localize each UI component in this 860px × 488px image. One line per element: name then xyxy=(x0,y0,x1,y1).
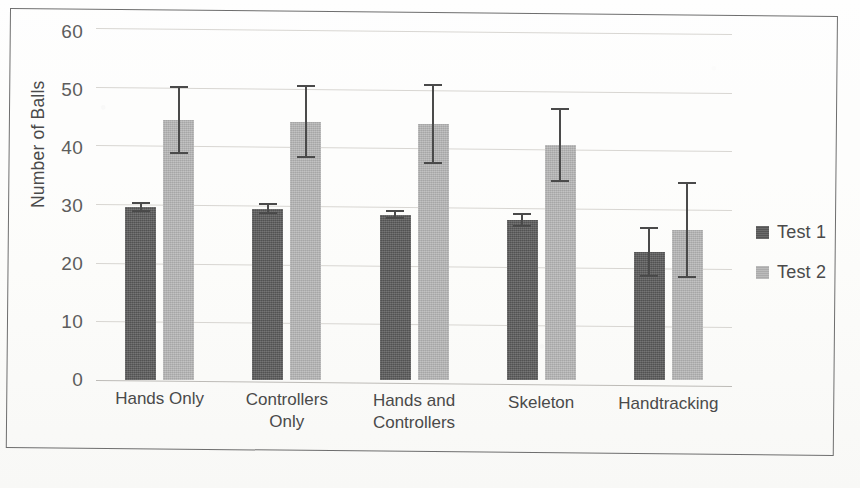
error-bar-cap-top xyxy=(678,182,696,184)
y-tick-label: 40 xyxy=(61,136,83,158)
error-bar-cap-top xyxy=(551,108,569,110)
error-bar-cap-bottom xyxy=(424,162,442,164)
legend-swatch-icon xyxy=(756,226,769,239)
error-bar-stem xyxy=(686,182,688,278)
bar-group xyxy=(125,28,194,380)
error-bar-cap-bottom xyxy=(551,180,569,182)
bar-group xyxy=(507,28,576,380)
y-tick-label: 30 xyxy=(61,194,83,216)
error-bar-cap-top xyxy=(640,227,658,229)
error-bar-cap-bottom xyxy=(386,217,404,219)
x-tick-label: Skeleton xyxy=(508,392,574,414)
error-bar-cap-top xyxy=(259,203,277,205)
error-bar-stem xyxy=(178,86,180,154)
y-tick-label: 50 xyxy=(61,78,83,100)
bar-test-2 xyxy=(163,120,194,380)
x-tick-label: Hands and Controllers xyxy=(373,390,455,434)
error-bar-cap-bottom xyxy=(513,225,531,227)
error-bar-stem xyxy=(559,108,561,182)
bar-fill xyxy=(125,207,156,380)
bar-fill xyxy=(290,122,321,380)
chart-page: Number of Balls 0102030405060 Hands Only… xyxy=(0,0,860,488)
x-tick-label: Hands Only xyxy=(115,388,204,410)
bar-fill xyxy=(507,220,538,380)
error-bar-stem xyxy=(648,227,650,277)
error-bar-cap-bottom xyxy=(132,210,150,212)
error-bar-cap-bottom xyxy=(678,276,696,278)
legend-item[interactable]: Test 2 xyxy=(756,262,826,283)
y-tick-label: 10 xyxy=(61,310,83,332)
error-bar-cap-bottom xyxy=(297,156,315,158)
y-tick-label: 60 xyxy=(61,20,83,42)
bar-fill xyxy=(380,215,411,380)
legend-swatch-icon xyxy=(756,266,769,279)
legend-item[interactable]: Test 1 xyxy=(756,222,826,243)
bar-group xyxy=(634,28,703,380)
y-tick-label: 0 xyxy=(72,369,83,391)
error-bar-cap-top xyxy=(386,210,404,212)
error-bar-cap-top xyxy=(513,213,531,215)
bar-group xyxy=(252,28,321,380)
chart-legend: Test 1Test 2 xyxy=(756,222,826,302)
bar-fill xyxy=(163,120,194,380)
error-bar-cap-top xyxy=(132,202,150,204)
y-tick-label: 20 xyxy=(61,252,83,274)
x-tick-label: Handtracking xyxy=(618,393,718,415)
error-bar-cap-top xyxy=(424,84,442,86)
x-tick-label: Controllers Only xyxy=(246,389,328,433)
error-bar-stem xyxy=(305,85,307,158)
bar-fill xyxy=(252,209,283,380)
error-bar-cap-bottom xyxy=(640,275,658,277)
legend-label: Test 1 xyxy=(777,222,826,243)
plot-area: 0102030405060 xyxy=(96,28,732,380)
bar-test-1 xyxy=(252,209,283,380)
bar-test-1 xyxy=(380,215,411,380)
y-axis-title: Number of Balls xyxy=(28,81,49,209)
error-bar-cap-top xyxy=(297,85,315,87)
error-bar-cap-bottom xyxy=(259,212,277,214)
bar-test-1 xyxy=(507,220,538,380)
error-bar-cap-bottom xyxy=(170,152,188,154)
x-axis-tick-labels: Hands OnlyControllers OnlyHands and Cont… xyxy=(96,388,732,444)
error-bar-cap-top xyxy=(170,86,188,88)
bar-test-1 xyxy=(125,207,156,380)
bar-test-2 xyxy=(290,122,321,380)
bar-group xyxy=(380,28,449,380)
error-bar-stem xyxy=(432,84,434,164)
legend-label: Test 2 xyxy=(777,262,826,283)
